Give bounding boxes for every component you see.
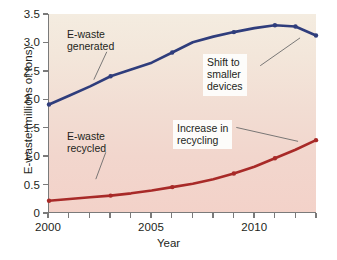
annotation-leader-line [96, 152, 106, 179]
x-tick-mark [171, 213, 172, 218]
y-tick-label: 3.0 [24, 36, 40, 48]
x-tick-mark [315, 213, 316, 218]
x-tick-mark [274, 213, 275, 218]
annotation-ewaste-recycled: E-waste recycled [67, 130, 106, 154]
series-marker [314, 33, 318, 37]
x-tick-mark [130, 213, 131, 218]
y-tick-label: 0 [34, 207, 41, 219]
x-tick-mark [150, 213, 151, 218]
x-tick-mark [233, 213, 234, 218]
series-marker [273, 23, 277, 27]
x-tick-mark [253, 213, 254, 218]
x-tick-mark [68, 213, 69, 218]
series-marker [170, 185, 174, 189]
x-tick-mark [47, 213, 48, 218]
annotation-leader-line [94, 52, 107, 80]
y-tick-label: 2.0 [24, 93, 40, 105]
series-marker [108, 74, 112, 78]
series-marker [314, 138, 318, 142]
series-marker [232, 171, 236, 175]
x-tick-mark [295, 213, 296, 218]
annotation-leader-line [236, 127, 298, 141]
x-tick-mark [192, 213, 193, 218]
x-tick-mark [212, 213, 213, 218]
series-marker [232, 30, 236, 34]
x-tick-mark [109, 213, 110, 218]
annotation-ewaste-generated: E-waste generated [67, 28, 114, 52]
annotation-increase-in-recycling: Increase in recycling [173, 120, 232, 149]
x-tick-label: 2010 [241, 221, 267, 233]
y-tick-label: 1.0 [24, 150, 40, 162]
series-marker [273, 156, 277, 160]
series-marker [170, 50, 174, 54]
series-marker [47, 102, 51, 106]
series-marker [293, 24, 297, 28]
y-tick-label: 3.5 [24, 8, 40, 20]
y-tick-label: 2.5 [24, 65, 40, 77]
series-marker [108, 193, 112, 197]
annotation-leader-line [260, 38, 300, 66]
chart-figure: E-waste (millions of tons) 00.51.01.52.0… [0, 0, 337, 260]
y-tick-label: 1.5 [24, 122, 40, 134]
x-tick-label: 2005 [138, 221, 164, 233]
plot-area: E-waste generated E-waste recycled Shift… [48, 14, 316, 213]
x-axis-title: Year [0, 237, 337, 249]
x-tick-mark [89, 213, 90, 218]
y-tick-label: 0.5 [24, 179, 40, 191]
annotation-shift-to-smaller-devices: Shift to smaller devices [203, 54, 247, 96]
x-tick-label: 2000 [35, 221, 61, 233]
series-marker [47, 198, 51, 202]
